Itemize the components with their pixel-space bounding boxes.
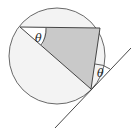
theta-label-tangent: θ bbox=[97, 67, 104, 80]
theta-label-left: θ bbox=[35, 32, 42, 45]
diagram: θ θ bbox=[0, 0, 131, 130]
